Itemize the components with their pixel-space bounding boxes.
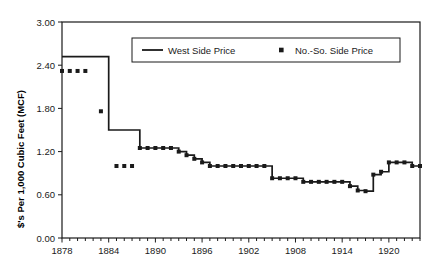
data-point-marker <box>76 69 80 73</box>
y-tick-label: 1.80 <box>37 103 56 114</box>
data-point-marker <box>348 184 352 188</box>
data-point-marker <box>200 160 204 164</box>
data-point-marker <box>114 164 118 168</box>
data-point-marker <box>410 164 414 168</box>
x-tick-label: 1878 <box>51 245 72 256</box>
data-point-marker <box>301 180 305 184</box>
series-line-west-side-price <box>62 57 420 192</box>
data-point-marker <box>262 164 266 168</box>
x-tick-label: 1920 <box>378 245 399 256</box>
data-point-marker <box>192 157 196 161</box>
x-tick-label: 1890 <box>145 245 166 256</box>
data-point-marker <box>169 146 173 150</box>
data-point-marker <box>99 109 103 113</box>
data-point-marker <box>161 146 165 150</box>
data-point-marker <box>356 188 360 192</box>
data-point-marker <box>278 176 282 180</box>
x-tick-label: 1914 <box>332 245 353 256</box>
y-tick-label: 0.00 <box>37 233 56 244</box>
x-tick-label: 1908 <box>285 245 306 256</box>
legend-label-no-so-side-price: No.-So. Side Price <box>295 45 373 56</box>
data-point-marker <box>138 146 142 150</box>
data-point-marker <box>247 164 251 168</box>
data-point-marker <box>371 173 375 177</box>
chart-svg: 0.000.601.201.802.403.001878188418901896… <box>0 0 442 268</box>
data-point-marker <box>122 164 126 168</box>
data-point-marker <box>255 164 259 168</box>
data-point-marker <box>68 69 72 73</box>
data-point-marker <box>286 176 290 180</box>
data-point-marker <box>395 160 399 164</box>
y-tick-label: 2.40 <box>37 60 56 71</box>
data-point-marker <box>146 146 150 150</box>
data-point-marker <box>239 164 243 168</box>
data-point-marker <box>223 164 227 168</box>
data-point-marker <box>270 176 274 180</box>
data-point-marker <box>402 160 406 164</box>
series-markers-no-so-side-price <box>60 69 422 193</box>
data-point-marker <box>309 180 313 184</box>
data-point-marker <box>60 69 64 73</box>
data-point-marker <box>231 164 235 168</box>
data-point-marker <box>185 153 189 157</box>
legend-square-swatch <box>279 48 284 53</box>
data-point-marker <box>418 164 422 168</box>
data-point-marker <box>153 146 157 150</box>
x-tick-label: 1896 <box>192 245 213 256</box>
data-point-marker <box>379 170 383 174</box>
y-tick-label: 0.60 <box>37 189 56 200</box>
x-tick-label: 1884 <box>98 245 119 256</box>
data-point-marker <box>317 180 321 184</box>
legend-label-west-side-price: West Side Price <box>168 45 235 56</box>
y-tick-label: 3.00 <box>37 17 56 28</box>
y-tick-label: 1.20 <box>37 146 56 157</box>
x-tick-label: 1902 <box>238 245 259 256</box>
chart-container: $'s Per 1,000 Cubic Feet (MCF) 0.000.601… <box>0 0 442 268</box>
data-point-marker <box>293 176 297 180</box>
data-point-marker <box>216 164 220 168</box>
data-point-marker <box>325 180 329 184</box>
data-point-marker <box>208 164 212 168</box>
data-point-marker <box>130 164 134 168</box>
data-point-marker <box>364 189 368 193</box>
data-point-marker <box>387 160 391 164</box>
data-point-marker <box>177 150 181 154</box>
data-point-marker <box>83 69 87 73</box>
data-point-marker <box>332 180 336 184</box>
data-point-marker <box>340 180 344 184</box>
